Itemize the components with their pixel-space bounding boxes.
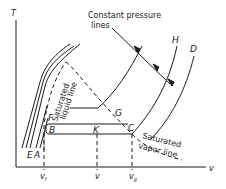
point-D: D: [190, 44, 197, 54]
tick-vg: vg: [129, 172, 137, 183]
y-axis-label: T: [11, 9, 17, 18]
x-axis-label: v: [209, 164, 214, 173]
tick-v: v: [95, 172, 100, 181]
lines-label: lines: [91, 21, 110, 30]
point-B: B: [49, 125, 55, 135]
point-F: F: [48, 113, 54, 123]
tv-diagram: T v vf v vg Constant pressure lines Satu…: [0, 0, 226, 189]
pressure-curve-1: [98, 46, 142, 108]
arrowhead-2: [153, 64, 159, 71]
pressure-curve-H: [132, 46, 177, 134]
point-H: H: [172, 35, 179, 45]
tick-vf: vf: [40, 172, 48, 182]
point-G: G: [115, 108, 122, 118]
constant-pressure-label: Constant pressure: [88, 11, 161, 20]
point-C: C: [128, 123, 135, 133]
b-box: [46, 124, 48, 134]
point-E: E: [27, 150, 33, 160]
point-A: A: [33, 150, 40, 160]
pointer-line: [112, 28, 170, 84]
